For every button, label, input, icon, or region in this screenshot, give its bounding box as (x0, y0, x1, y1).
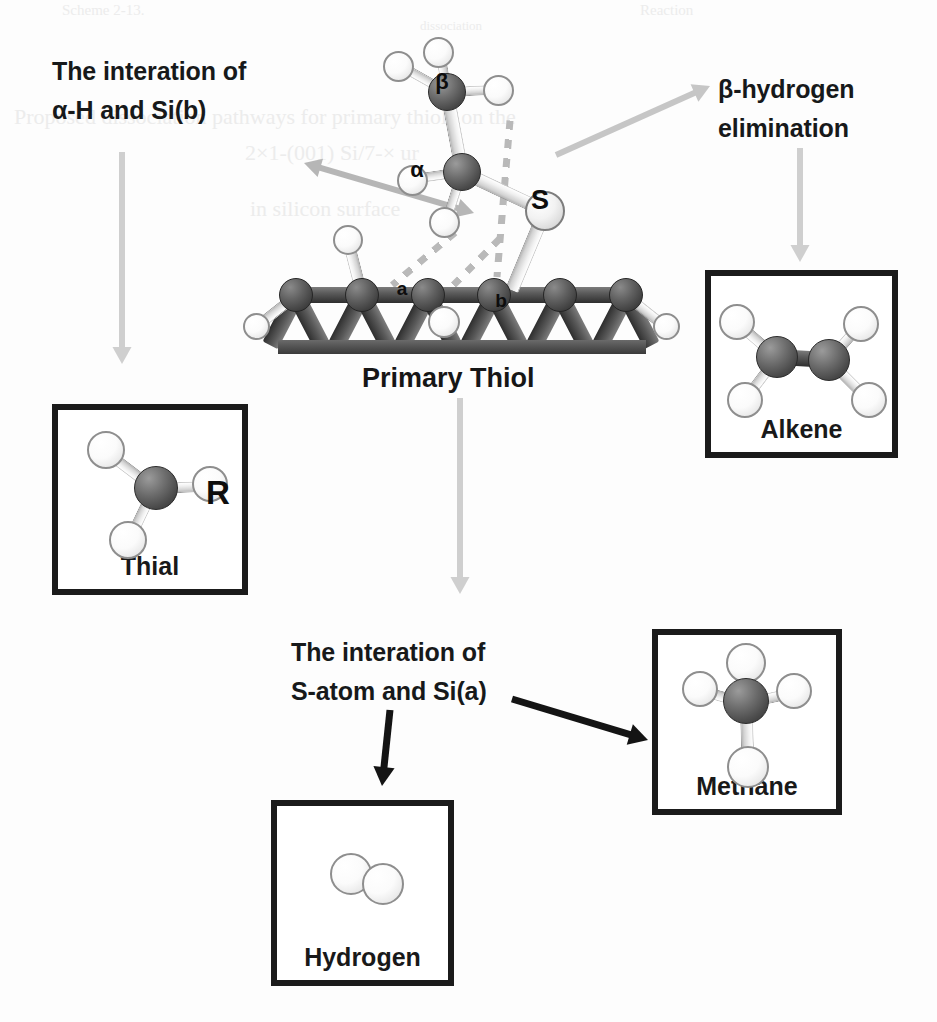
silicon-atom-5 (609, 278, 643, 312)
thial-sulfur-atom (87, 431, 125, 469)
silicon-atom-4 (543, 278, 577, 312)
silicon-atom-0 (279, 278, 313, 312)
s-atom-si-a-callout: The interation of S-atom and Si(a) (291, 633, 487, 711)
arrow-to-hydrogen (373, 710, 394, 786)
arrow-to-methane (512, 699, 648, 745)
methane-carbon-atom (723, 678, 769, 724)
beta-carbon-atom (428, 73, 466, 111)
alkene-hydrogen-4 (851, 382, 887, 418)
alpha-hydrogen-2 (429, 207, 460, 238)
arrow-to-bottom-center (450, 398, 469, 594)
alpha-hydrogen-1 (397, 165, 428, 196)
alkene-carbon-1 (756, 336, 798, 378)
thial-box[interactable]: R Thial (52, 404, 248, 595)
alkene-hydrogen-3 (843, 306, 879, 342)
silicon-atom-1 (345, 278, 379, 312)
surface-hydrogen-left (243, 313, 270, 340)
surface-hydrogen-up (333, 225, 363, 255)
alkene-caption: Alkene (711, 415, 892, 444)
surface-hydrogen-front (428, 306, 460, 338)
thial-hydrogen-atom (109, 521, 147, 559)
thial-molecule-stage: R (58, 416, 242, 547)
methane-hydrogen-1 (682, 671, 718, 707)
methane-hydrogen-3 (776, 673, 812, 709)
hydrogen-caption: Hydrogen (277, 943, 448, 972)
alkene-carbon-2 (808, 339, 850, 381)
alpha-carbon-atom (443, 153, 481, 191)
thial-r-group-atom (192, 466, 228, 502)
alkene-hydrogen-1 (719, 304, 755, 340)
hydrogen-molecule-stage (277, 812, 448, 938)
callout-line-2: S-atom and Si(a) (291, 672, 487, 711)
beta-hydrogen-1 (383, 51, 414, 82)
methane-hydrogen-4 (727, 746, 769, 788)
methane-hydrogen-2 (726, 643, 766, 683)
center-structure-caption: Primary Thiol (362, 363, 535, 394)
hydrogen-atom-2 (362, 863, 404, 905)
beta-hydrogen-3 (483, 75, 514, 106)
callout-line-1: The interation of (291, 638, 485, 666)
alkene-hydrogen-2 (727, 382, 763, 418)
beta-hydrogen-2 (423, 37, 454, 68)
figure-canvas: Scheme 2-13.ReactionProposed dissociatio… (0, 0, 937, 1022)
silicon-atom-3 (477, 278, 511, 312)
thial-caption: Thial (58, 552, 242, 581)
hydrogen-box[interactable]: Hydrogen (271, 800, 454, 986)
sulfur-atom (525, 191, 565, 231)
silicon-bulk-bar (278, 340, 646, 354)
methane-box[interactable]: Methane (652, 629, 842, 815)
methane-molecule-stage (658, 641, 836, 767)
surface-hydrogen-right (653, 313, 680, 340)
alkene-molecule-stage (711, 282, 892, 410)
alkene-box[interactable]: Alkene (705, 270, 898, 458)
thial-carbon-atom (134, 466, 178, 510)
